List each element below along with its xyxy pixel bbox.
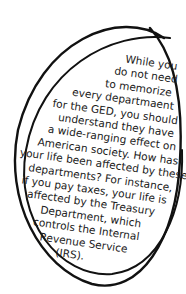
annotation-note: While you do not need to memorize every … bbox=[6, 40, 186, 275]
